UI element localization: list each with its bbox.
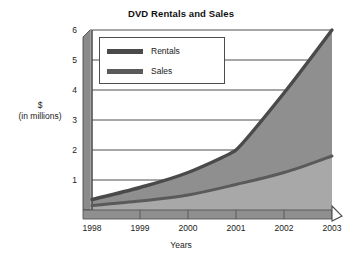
legend-swatch-sales xyxy=(107,69,143,74)
x-axis-tick-label: 2001 xyxy=(219,224,253,233)
x-axis-tick-label: 2000 xyxy=(171,224,205,233)
y-axis-tick-label: 1 xyxy=(59,176,77,184)
legend-item-rentals: Rentals xyxy=(107,43,180,59)
y-axis-tick-label: 5 xyxy=(59,56,77,64)
y-axis-tick-label: 4 xyxy=(59,86,77,94)
x-axis-tick-label: 1999 xyxy=(123,224,157,233)
x-axis-tick-label: 2003 xyxy=(315,224,349,233)
chart-title: DVD Rentals and Sales xyxy=(0,8,362,19)
legend-label-rentals: Rentals xyxy=(151,47,180,56)
x-axis-tick-label: 2002 xyxy=(267,224,301,233)
legend-label-sales: Sales xyxy=(151,67,172,76)
chart-container: DVD Rentals and Sales $ (in millions) Ye… xyxy=(0,0,362,266)
legend-swatch-rentals xyxy=(107,49,143,54)
y-axis-tick-label: 2 xyxy=(59,146,77,154)
x-axis-label: Years xyxy=(0,240,362,250)
y-axis-tick-label: 3 xyxy=(59,116,77,124)
y-axis-tick-label: 6 xyxy=(59,26,77,34)
chart-legend: Rentals Sales xyxy=(99,37,225,84)
y-axis-label-currency: $ xyxy=(2,100,78,111)
legend-item-sales: Sales xyxy=(107,63,172,79)
x-axis-tick-label: 1998 xyxy=(75,224,109,233)
